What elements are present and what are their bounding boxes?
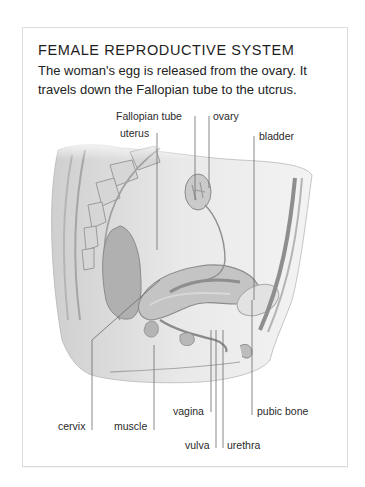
label-bladder: bladder (259, 130, 294, 142)
label-ovary: ovary (213, 110, 239, 122)
label-urethra: urethra (227, 439, 260, 451)
label-vagina: vagina (173, 405, 204, 417)
label-vulva: vulva (185, 439, 210, 451)
label-cervix: cervix (58, 420, 85, 432)
label-pubic-bone: pubic bone (257, 405, 308, 417)
label-fallopian-tube: Fallopian tube (116, 110, 182, 122)
label-muscle: muscle (114, 420, 147, 432)
label-uterus: uterus (120, 127, 149, 139)
ovary-shape (185, 174, 211, 210)
